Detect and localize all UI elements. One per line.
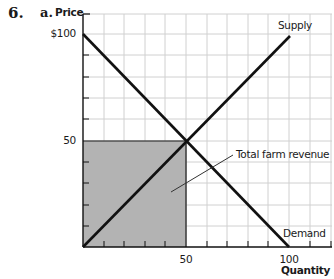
supply-label: Supply: [278, 19, 312, 31]
demand-label: Demand: [283, 227, 326, 239]
revenue-label: Total farm revenue: [236, 148, 329, 160]
x-tick-50: 50: [166, 253, 206, 265]
y-tick-50: 50: [36, 134, 76, 146]
y-tick-100: $100: [36, 27, 76, 39]
x-axis-label: Quantity: [281, 264, 330, 276]
